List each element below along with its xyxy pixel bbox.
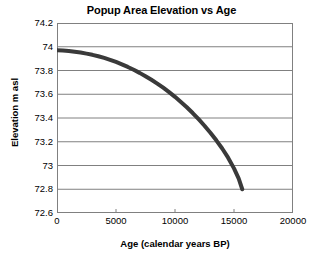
y-tick-label: 74.2 [21,18,53,27]
y-tick-label: 73 [21,161,53,170]
x-axis-title: Age (calendar years BP) [57,238,293,249]
chart-plot-svg [57,23,293,213]
chart-container: Popup Area Elevation vs Age Elevation m … [0,0,323,260]
y-tick-label: 73.6 [21,89,53,98]
y-tick-label: 73.4 [21,113,53,122]
y-axis-tick-labels: 72.672.87373.273.473.673.87474.2 [16,23,53,213]
x-tick-label: 5000 [91,216,141,226]
chart-title: Popup Area Elevation vs Age [0,4,323,16]
x-tick-label: 15000 [209,216,259,226]
y-tick-label: 72.8 [21,184,53,193]
x-axis-tick-labels: 05000100001500020000 [57,216,293,230]
y-tick-label: 74 [21,42,53,51]
plot-area [57,23,293,213]
x-tick-label: 20000 [268,216,318,226]
x-tick-label: 0 [32,216,82,226]
x-tick-label: 10000 [150,216,200,226]
y-tick-label: 73.2 [21,137,53,146]
y-tick-label: 73.8 [21,66,53,75]
